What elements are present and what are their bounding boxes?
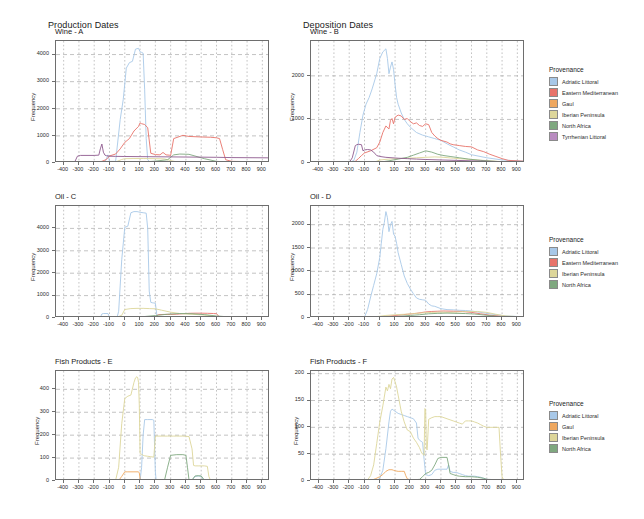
legend-swatch-icon: [549, 247, 558, 256]
y-tick-mark: [307, 426, 310, 427]
x-tick-mark: [124, 162, 125, 165]
x-tick-mark: [231, 317, 232, 320]
x-tick-mark: [379, 480, 380, 483]
x-tick-label: 900: [504, 484, 528, 490]
legend-item[interactable]: Iberian Peninsula: [549, 432, 605, 443]
series-line: [56, 212, 269, 317]
y-tick-mark: [307, 317, 310, 318]
x-tick-label: 900: [249, 321, 273, 327]
legend-item[interactable]: Tyrrhenian Littoral: [549, 131, 618, 142]
legend-wine: ProvenanceAdriatic LittoralEastern Medit…: [549, 66, 618, 142]
legend-item[interactable]: Adriatic Littoral: [549, 410, 605, 421]
series-line: [56, 123, 269, 162]
y-tick-label: 50: [286, 450, 304, 456]
y-tick-mark: [52, 457, 55, 458]
x-tick-label: 900: [249, 166, 273, 172]
x-tick-mark: [109, 480, 110, 483]
series-line: [311, 470, 524, 480]
legend-item-label: Tyrrhenian Littoral: [562, 134, 606, 140]
legend-item[interactable]: Eastern Mediterranean: [549, 257, 618, 268]
x-tick-mark: [78, 162, 79, 165]
y-tick-mark: [307, 247, 310, 248]
legend-item-label: Iberian Peninsula: [562, 271, 605, 277]
x-tick-mark: [318, 480, 319, 483]
legend-item[interactable]: North Africa: [549, 443, 605, 454]
legend-item[interactable]: Gaul: [549, 98, 618, 109]
x-tick-mark: [139, 317, 140, 320]
y-tick-mark: [307, 294, 310, 295]
legend-swatch-icon: [549, 110, 558, 119]
y-tick-label: 200: [286, 369, 304, 375]
plot-svg: [311, 206, 524, 317]
y-tick-mark: [52, 81, 55, 82]
plot-svg: [56, 206, 269, 317]
x-tick-mark: [409, 317, 410, 320]
y-tick-mark: [307, 270, 310, 271]
legend-item[interactable]: Iberian Peninsula: [549, 268, 618, 279]
x-tick-mark: [246, 162, 247, 165]
legend-swatch-icon: [549, 269, 558, 278]
panel-title: Wine - B: [310, 27, 339, 36]
x-tick-mark: [379, 317, 380, 320]
plot-svg: [311, 371, 524, 480]
y-tick-mark: [307, 224, 310, 225]
y-tick-label: 2000: [282, 72, 304, 78]
legend-item[interactable]: North Africa: [549, 120, 618, 131]
plot-area: [55, 205, 269, 317]
y-axis-label: Frequency: [30, 253, 36, 281]
x-tick-mark: [109, 317, 110, 320]
legend-item[interactable]: Adriatic Littoral: [549, 76, 618, 87]
y-tick-label: 0: [282, 314, 304, 320]
y-tick-label: 3000: [23, 247, 49, 253]
plot-area: [310, 370, 524, 480]
series-line: [56, 420, 269, 480]
x-tick-mark: [348, 480, 349, 483]
legend-item-label: Iberian Peninsula: [562, 435, 605, 441]
x-tick-mark: [216, 480, 217, 483]
x-tick-label: 900: [504, 166, 528, 172]
series-line: [311, 144, 524, 162]
legend-swatch-icon: [549, 433, 558, 442]
y-tick-label: 1000: [23, 291, 49, 297]
x-tick-mark: [516, 480, 517, 483]
y-tick-label: 2000: [23, 105, 49, 111]
y-tick-mark: [52, 108, 55, 109]
panel-title: Wine - A: [55, 27, 83, 36]
x-tick-mark: [63, 480, 64, 483]
x-tick-mark: [394, 162, 395, 165]
legend-item-label: North Africa: [562, 446, 591, 452]
y-tick-label: 4000: [23, 224, 49, 230]
x-tick-mark: [455, 480, 456, 483]
y-tick-mark: [52, 411, 55, 412]
x-tick-mark: [63, 317, 64, 320]
x-tick-mark: [170, 317, 171, 320]
series-line: [311, 151, 524, 162]
plot-area: [55, 370, 269, 480]
x-tick-mark: [333, 480, 334, 483]
series-line: [311, 457, 524, 480]
plot-area: [310, 205, 524, 317]
legend-item[interactable]: Eastern Mediterranean: [549, 87, 618, 98]
series-line: [311, 212, 524, 317]
legend-item[interactable]: Gaul: [549, 421, 605, 432]
x-tick-mark: [516, 317, 517, 320]
x-tick-label: 900: [249, 484, 273, 490]
x-tick-mark: [394, 480, 395, 483]
x-tick-mark: [231, 162, 232, 165]
legend-item-label: Iberian Peninsula: [562, 112, 605, 118]
legend-title: Provenance: [549, 236, 618, 243]
y-tick-label: 100: [286, 423, 304, 429]
legend-item[interactable]: Adriatic Littoral: [549, 246, 618, 257]
x-tick-mark: [216, 317, 217, 320]
series-line: [56, 314, 269, 317]
legend-item[interactable]: North Africa: [549, 279, 618, 290]
series-line: [311, 377, 524, 480]
x-tick-mark: [364, 162, 365, 165]
x-tick-mark: [78, 480, 79, 483]
x-tick-mark: [333, 162, 334, 165]
y-tick-label: 1000: [23, 132, 49, 138]
legend-item[interactable]: Iberian Peninsula: [549, 109, 618, 120]
x-tick-mark: [501, 317, 502, 320]
y-tick-label: 4000: [23, 50, 49, 56]
legend-item-label: Eastern Mediterranean: [562, 260, 618, 266]
